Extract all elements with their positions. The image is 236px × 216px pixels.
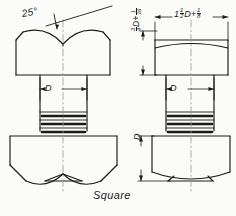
nut-right-corner-chamfer (101, 165, 117, 181)
nut-left-chamfer-arc (26, 174, 63, 184)
head-width-label: 112D+18 (174, 8, 201, 20)
head-chamfer-arc (155, 44, 228, 49)
nut-height-label: D (133, 134, 142, 141)
right-shank-diameter-label: D (170, 84, 177, 93)
left-view-nut (10, 136, 117, 184)
angle-arrowhead (55, 24, 59, 29)
dim-arrow-right (209, 87, 215, 91)
dim-arrow-bottom (139, 176, 143, 182)
dim-arrow-right (82, 87, 88, 91)
nut-left-corner-chamfer (10, 165, 26, 181)
right-view-bolt-head (155, 40, 228, 75)
nut-bottom-facet-right (63, 174, 82, 181)
engineering-drawing-canvas (0, 0, 236, 216)
head-height-label: 34D+116 (131, 8, 142, 32)
head-width-addend: 18 (197, 8, 201, 20)
right-view-threads (166, 112, 214, 132)
head-width-whole: 1 (174, 9, 179, 19)
head-left-chamfer-arc (23, 30, 63, 44)
head-height-plus: + (131, 16, 141, 21)
head-height-variable: D (131, 21, 141, 27)
left-shank-diameter-label: D (45, 84, 52, 93)
dim-arrow-right (223, 15, 229, 19)
dim-arrow-bottom (141, 70, 145, 76)
head-width-plus: + (191, 9, 196, 19)
head-right-corner-chamfer (103, 32, 110, 40)
nut-height-dimension (138, 136, 170, 181)
chamfer-angle-leader (46, 6, 112, 29)
left-view-threads (40, 112, 87, 132)
dim-arrow-left (155, 15, 161, 19)
head-right-chamfer-arc (63, 30, 103, 44)
head-height-addend: 116 (131, 8, 142, 15)
head-height-fraction: 34 (131, 27, 142, 31)
head-left-corner-chamfer (16, 32, 23, 40)
figure-caption: Square (93, 190, 131, 201)
